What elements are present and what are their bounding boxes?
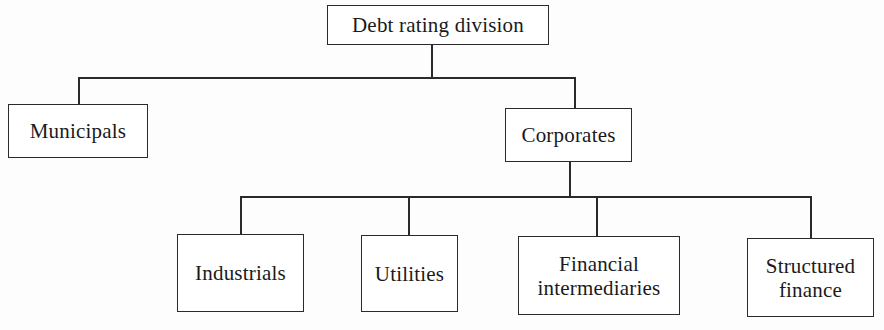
connector-financial-intermediaries bbox=[596, 196, 598, 236]
node-label: Corporates bbox=[521, 123, 615, 147]
node-label: Utilities bbox=[375, 262, 444, 286]
connector-industrials bbox=[240, 196, 242, 234]
node-structured-finance: Structured finance bbox=[747, 238, 874, 317]
node-label-line2: finance bbox=[779, 278, 842, 302]
connector-level1-bar bbox=[78, 77, 575, 79]
node-utilities: Utilities bbox=[361, 235, 458, 312]
connector-level2-bar bbox=[240, 196, 811, 198]
connector-corporates-down bbox=[569, 162, 571, 197]
connector-root-down bbox=[431, 45, 433, 77]
node-municipals: Municipals bbox=[8, 104, 148, 158]
connector-structured-finance bbox=[810, 196, 812, 238]
connector-corporates bbox=[574, 77, 576, 109]
connector-municipals bbox=[78, 77, 80, 104]
node-financial-intermediaries: Financial intermediaries bbox=[518, 236, 680, 315]
connector-utilities bbox=[408, 196, 410, 235]
node-label-line1: Financial bbox=[559, 252, 639, 276]
node-corporates: Corporates bbox=[505, 108, 632, 162]
org-chart-diagram: Debt rating division Municipals Corporat… bbox=[0, 0, 884, 330]
node-label-line2: intermediaries bbox=[538, 276, 661, 300]
node-label: Municipals bbox=[30, 119, 127, 143]
node-industrials: Industrials bbox=[177, 234, 304, 312]
node-debt-rating-division: Debt rating division bbox=[327, 5, 549, 45]
node-label: Industrials bbox=[195, 261, 286, 285]
node-label-line1: Structured bbox=[766, 254, 855, 278]
node-label: Debt rating division bbox=[352, 13, 524, 37]
